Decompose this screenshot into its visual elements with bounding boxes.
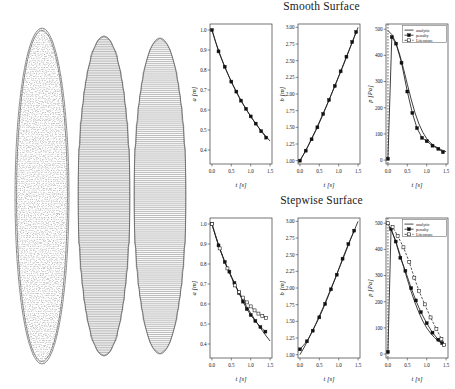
row-title-smooth: Smooth Surface [188, 0, 455, 12]
data-marker [431, 331, 434, 334]
data-marker [437, 147, 440, 150]
chart-smooth-p: 0.00.51.01.50100200300400500t [s]p [Pa]a… [366, 18, 452, 190]
series-line [212, 224, 266, 318]
data-marker [253, 309, 256, 312]
x-tick-label: 0.0 [385, 168, 392, 174]
y-tick-label: 2.75 [286, 41, 295, 47]
y-tick-label: 2.00 [286, 91, 295, 97]
x-tick-label: 1.5 [443, 168, 450, 174]
y-axis-label: b [m] [278, 280, 286, 295]
mesh-panel [0, 0, 196, 389]
y-tick-label: 1.75 [286, 302, 295, 308]
data-marker [391, 225, 394, 228]
y-tick-label: 400 [375, 52, 383, 58]
chart-smooth-a: 0.00.51.01.50.40.50.60.70.80.91.0t [s]a … [190, 18, 276, 190]
mesh-svg [0, 0, 196, 389]
y-tick-label: 100 [375, 325, 383, 331]
data-marker [226, 267, 229, 270]
x-tick-label: 1.0 [336, 362, 343, 368]
y-tick-label: 100 [375, 131, 383, 137]
series-penalty [386, 227, 443, 353]
data-marker [311, 329, 314, 332]
data-marker [245, 107, 248, 110]
y-tick-label: 2.25 [286, 268, 295, 274]
data-marker [386, 157, 389, 160]
legend-swatch-marker [408, 228, 411, 231]
data-marker [355, 31, 358, 34]
x-axis-label: t [s] [235, 375, 247, 383]
data-marker [429, 316, 432, 319]
x-tick-label: 1.5 [443, 362, 450, 368]
x-axis-label: t [s] [323, 375, 335, 383]
y-tick-label: 0.5 [200, 127, 207, 133]
series-penalty [298, 229, 355, 351]
y-tick-label: 500 [375, 220, 383, 226]
x-tick-label: 1.0 [248, 168, 255, 174]
y-tick-label: 200 [375, 105, 383, 111]
legend-label: Literature [416, 38, 433, 43]
data-marker [235, 90, 238, 93]
data-marker [316, 126, 319, 129]
plot-grid: Smooth Surface 0.00.51.01.50.40.50.60.70… [188, 0, 455, 389]
y-tick-label: 1.25 [286, 335, 295, 341]
y-tick-label: 0.9 [200, 47, 207, 53]
y-tick-label: 0.6 [200, 107, 207, 113]
data-marker [217, 50, 220, 53]
y-tick-label: 2.25 [286, 74, 295, 80]
data-marker [419, 311, 422, 314]
y-tick-label: 2.50 [286, 252, 295, 258]
series-line [388, 37, 443, 159]
data-marker [254, 122, 257, 125]
plot-frame [210, 218, 272, 358]
data-marker [400, 61, 403, 64]
series-line [300, 27, 358, 160]
chart-stepwise-b: 0.00.51.01.51.001.251.501.752.002.252.50… [278, 212, 364, 384]
data-marker [410, 287, 413, 290]
data-marker [437, 338, 440, 341]
data-marker [234, 284, 237, 287]
chart-stepwise-b: 0.00.51.01.51.001.251.501.752.002.252.50… [278, 212, 364, 384]
y-tick-label: 0.8 [200, 67, 207, 73]
row-smooth: Smooth Surface 0.00.51.01.50.40.50.60.70… [188, 0, 455, 194]
y-tick-label: 2.75 [286, 235, 295, 241]
x-tick-label: 1.5 [267, 168, 274, 174]
series-penalty [210, 29, 267, 140]
legend-label: Literature [416, 232, 433, 237]
data-marker [264, 330, 267, 333]
x-axis-label: t [s] [411, 375, 423, 383]
data-marker [322, 113, 325, 116]
series-line [212, 224, 270, 341]
series-line [212, 30, 266, 138]
y-tick-label: 0.4 [200, 341, 207, 347]
data-marker [440, 337, 443, 340]
y-axis-label: a [m] [190, 280, 198, 295]
y-tick-label: 1.25 [286, 141, 295, 147]
chart-stepwise-a: 0.00.51.01.50.40.50.60.70.80.91.0t [s]a … [190, 212, 276, 384]
data-marker [324, 303, 327, 306]
data-marker [345, 55, 348, 58]
y-tick-label: 0.5 [200, 321, 207, 327]
x-axis-label: t [s] [323, 181, 335, 189]
y-axis-label: p [Pa] [366, 279, 374, 298]
y-tick-label: 1.00 [286, 158, 295, 164]
data-marker [241, 296, 244, 299]
x-tick-label: 1.0 [336, 168, 343, 174]
x-tick-label: 0.0 [209, 362, 216, 368]
series-penalty [386, 36, 444, 161]
data-marker [249, 305, 252, 308]
x-axis-label: t [s] [411, 181, 423, 189]
x-tick-label: 1.5 [355, 362, 362, 368]
x-tick-label: 0.5 [316, 362, 323, 368]
data-marker [443, 343, 446, 346]
x-tick-label: 0.0 [297, 362, 304, 368]
x-tick-label: 0.0 [297, 168, 304, 174]
data-marker [394, 240, 397, 243]
legend: analyticpenaltyLiterature [403, 220, 447, 237]
figure-root: Smooth Surface 0.00.51.01.50.40.50.60.70… [0, 0, 455, 389]
data-marker [423, 303, 426, 306]
y-tick-label: 1.0 [200, 27, 207, 33]
data-marker [304, 149, 307, 152]
y-tick-label: 1.75 [286, 108, 295, 114]
stepwise-ellipse-mesh-fine [134, 38, 186, 354]
data-marker [249, 314, 252, 317]
